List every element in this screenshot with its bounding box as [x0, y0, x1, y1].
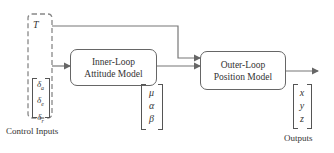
control-inputs-label: Control Inputs — [6, 126, 58, 137]
position-output-vector: x y z — [293, 86, 311, 125]
inner-loop-attitude-model-block: Inner-Loop Attitude Model — [70, 49, 157, 86]
attitude-vector: μ α β — [141, 86, 162, 125]
outputs-label: Outputs — [284, 133, 313, 144]
control-surfaces-vector: δa δe δr — [32, 78, 49, 127]
thrust-symbol: T — [33, 19, 39, 30]
outer-loop-position-model-block: Outer-Loop Position Model — [200, 51, 286, 90]
